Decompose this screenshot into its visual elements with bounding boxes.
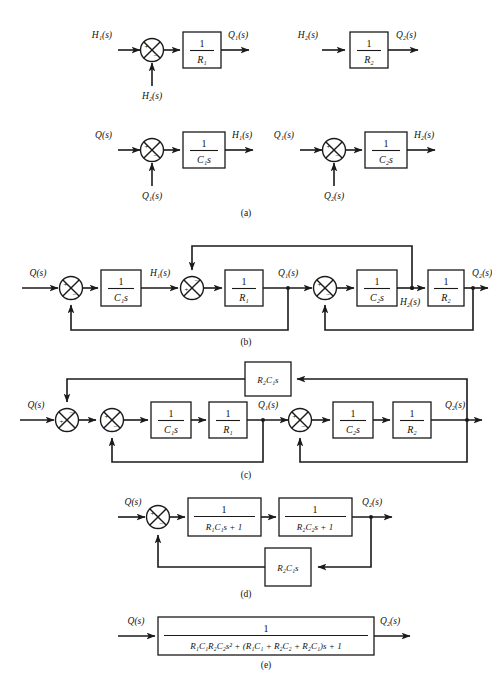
block-numerator: 1 — [410, 408, 415, 419]
sign-minus: − — [154, 52, 158, 60]
panel-d: Q(s) + − 1 R₁C₁s + 1 1 R₂C₂s + 1 Q₂(s) R… — [118, 497, 392, 600]
signal-q2-input: Q₂(s) — [324, 191, 344, 202]
panel-e: Q(s) 1 R₁C₁R₂C₂s² + (R₁C₁ + R₂C₂ + R₂C₁)… — [118, 616, 410, 671]
sign-plus: + — [64, 281, 68, 289]
signal-output-q2: Q₂(s) — [362, 497, 382, 508]
signal-input-q: Q(s) — [28, 400, 45, 411]
signal-h2-output: H₂(s) — [413, 130, 434, 141]
signal-h1-input: H₁(s) — [91, 30, 112, 41]
sign-plus: + — [185, 286, 189, 294]
panel-b: Q(s) + − 1 C₁s H₁(s) + − 1 R₁ Q₁(s) — [22, 246, 492, 348]
block-denominator: C₁s — [114, 292, 128, 303]
signal-output-q2: Q₂(s) — [472, 268, 492, 279]
signal-h2: H₂(s) — [399, 297, 420, 308]
sign-minus: − — [160, 520, 164, 528]
caption-e: (e) — [261, 660, 272, 671]
caption-d: (d) — [240, 589, 251, 600]
caption-c: (c) — [241, 470, 252, 481]
sign-minus: − — [195, 277, 199, 285]
sign-plus: + — [145, 143, 149, 151]
block-numerator: 1 — [375, 276, 380, 287]
block-denominator: R₁ — [238, 292, 249, 303]
block-denominator: R₂ — [440, 292, 451, 303]
sign-plus: + — [105, 413, 109, 421]
signal-q1: Q₁(s) — [258, 400, 278, 411]
caption-a: (a) — [241, 208, 252, 219]
block-denominator: C₂s — [346, 424, 360, 435]
block-numerator: 1 — [202, 138, 207, 149]
block-denominator: R₁C₁R₂C₂s² + (R₁C₁ + R₂C₂ + R₂C₁)s + 1 — [189, 641, 341, 651]
signal-q-input: Q(s) — [95, 130, 112, 141]
signal-q1-input: Q₁(s) — [142, 191, 162, 202]
block-denominator: R₂ — [363, 54, 374, 65]
signal-input-q: Q(s) — [30, 268, 47, 279]
signal-output-q2: Q₂(s) — [380, 616, 400, 627]
sign-plus: + — [60, 418, 64, 426]
sign-minus: − — [154, 152, 158, 160]
sign-minus: − — [114, 423, 118, 431]
signal-h1-output: H₁(s) — [231, 130, 252, 141]
panel-a-sub3: + − 1 C₁s Q(s) Q₁(s) H₁(s) — [95, 130, 253, 202]
signal-input-q: Q(s) — [125, 497, 142, 508]
signal-q1-output: Q₁(s) — [228, 30, 248, 41]
block-numerator: 1 — [367, 38, 372, 49]
block-denominator: C₁s — [164, 424, 178, 435]
panel-a-sub1: + − 1 R₁ H₁(s) H₂(s) Q₁(s) — [91, 30, 249, 102]
block-denominator: R₂C₂s + 1 — [296, 522, 333, 532]
block-denominator: R₁C₁s + 1 — [205, 522, 242, 532]
sign-plus: + — [327, 143, 331, 151]
panel-a-sub2: 1 R₂ H₂(s) Q₂(s) — [297, 30, 418, 68]
sign-plus: + — [145, 43, 149, 51]
signal-q2-output: Q₂(s) — [396, 30, 416, 41]
block-numerator: 1 — [200, 38, 205, 49]
panel-a: + − 1 R₁ H₁(s) H₂(s) Q₁(s) 1 R₂ H₂(s) Q₂… — [91, 30, 435, 219]
sign-minus: − — [70, 409, 74, 417]
panel-a-sub4: + − 1 C₂s Q₁(s) Q₂(s) H₂(s) — [274, 130, 435, 202]
feedback-block-label: R₂C₁s — [276, 563, 299, 573]
sign-minus: − — [302, 423, 306, 431]
caption-b: (b) — [240, 337, 251, 348]
block-denominator: C₂s — [379, 154, 393, 165]
block-numerator: 1 — [226, 408, 231, 419]
signal-q1-input: Q₁(s) — [274, 130, 294, 141]
feedback-block-label: R₂C₁s — [256, 375, 279, 385]
block-diagram-figure: + − 1 R₁ H₁(s) H₂(s) Q₁(s) 1 R₂ H₂(s) Q₂… — [0, 0, 492, 678]
signal-q1: Q₁(s) — [278, 268, 298, 279]
block-denominator: C₂s — [370, 292, 384, 303]
block-denominator: C₁s — [197, 154, 211, 165]
sign-minus: − — [73, 291, 77, 299]
block-numerator: 1 — [313, 504, 318, 515]
block-denominator: R₁ — [196, 54, 207, 65]
block-numerator: 1 — [351, 408, 356, 419]
signal-h2-input: H₂(s) — [297, 30, 318, 41]
sign-plus: + — [293, 413, 297, 421]
block-numerator: 1 — [169, 408, 174, 419]
block-denominator: R₁ — [222, 424, 233, 435]
block-numerator: 1 — [264, 623, 269, 634]
signal-h1: H₁(s) — [149, 268, 170, 279]
signal-output-q2: Q₂(s) — [445, 400, 465, 411]
block-numerator: 1 — [222, 504, 227, 515]
sign-minus: − — [336, 152, 340, 160]
panel-c: Q(s) + − + − 1 C₁s 1 R₁ Q₁(s) + — [20, 362, 482, 481]
block-numerator: 1 — [444, 276, 449, 287]
sign-plus: + — [318, 281, 322, 289]
block-denominator: R₂ — [406, 424, 417, 435]
signal-input-q: Q(s) — [128, 616, 145, 627]
block-numerator: 1 — [242, 276, 247, 287]
block-numerator: 1 — [384, 138, 389, 149]
figure-canvas: + − 1 R₁ H₁(s) H₂(s) Q₁(s) 1 R₂ H₂(s) Q₂… — [0, 0, 492, 678]
sign-plus: + — [151, 510, 155, 518]
signal-h2-input: H₂(s) — [141, 91, 162, 102]
block-numerator: 1 — [119, 276, 124, 287]
sign-minus: − — [327, 291, 331, 299]
